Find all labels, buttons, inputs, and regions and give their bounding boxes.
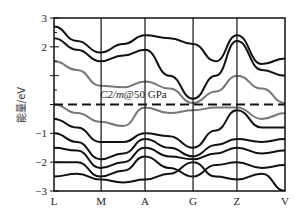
y-tick-label: −3 — [35, 185, 47, 197]
y-tick-label: −2 — [35, 156, 47, 168]
band-line — [54, 61, 285, 103]
x-tick-label: G — [189, 195, 197, 207]
x-tick-label: M — [96, 195, 106, 207]
x-tick-label: V — [281, 195, 289, 207]
y-axis-label: 能量/eV — [15, 87, 27, 124]
y-tick-label: −1 — [35, 127, 47, 139]
band-line — [54, 105, 285, 127]
x-tick-label: L — [51, 195, 58, 207]
band-structure-chart: C2/m@50 GPa 32−1−2−3 LMAGZV 能量/eV — [0, 0, 301, 220]
band-line — [54, 110, 285, 148]
x-tick-label: A — [141, 195, 149, 207]
x-tick-label: Z — [234, 195, 241, 207]
y-tick-label: 2 — [42, 41, 48, 53]
band-lines — [54, 27, 285, 191]
plot-area: C2/m@50 GPa — [50, 18, 285, 191]
phase-annotation: C2/m@50 GPa — [100, 88, 167, 100]
y-axis-tick-labels: 32−1−2−3 — [35, 12, 47, 197]
y-tick-label: 3 — [42, 12, 48, 24]
x-axis-labels: LMAGZV — [51, 195, 289, 207]
